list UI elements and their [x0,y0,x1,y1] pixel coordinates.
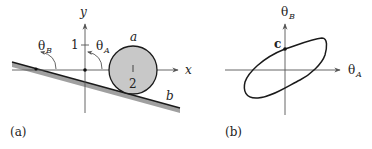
disk-center-label: 2 [129,77,137,91]
caption-b: (b) [225,125,242,139]
svg-text:θ: θ [96,39,103,53]
svg-text:B: B [45,46,52,55]
figure: y x 1 a 2 b θ B θ A (a) c θ B θ [0,0,372,149]
incline-point-dot [34,67,37,70]
theta-b-label: θ B [38,39,52,55]
svg-text:A: A [355,70,362,79]
theta-a-arc-icon [88,52,102,69]
disk-a-label: a [130,30,137,44]
tick-1-label: 1 [71,38,79,52]
point-c-dot [283,47,287,51]
svg-text:θ: θ [38,39,45,53]
figure-svg: y x 1 a 2 b θ B θ A (a) c θ B θ [0,0,372,149]
incline-b-label: b [166,89,174,103]
svg-text:B: B [288,12,295,21]
svg-text:A: A [103,46,110,55]
svg-text:θ: θ [348,63,355,77]
y-axis-label: y [79,5,87,19]
theta-a-axis-label: θ A [348,63,362,79]
x-axis-label: x [185,63,192,77]
svg-text:θ: θ [281,5,288,19]
caption-a: (a) [10,125,27,139]
origin-dot [83,68,87,72]
panel-a: y x 1 a 2 b θ B θ A (a) [10,5,192,139]
theta-a-label: θ A [96,39,110,55]
panel-b: c θ B θ A (b) [225,5,362,139]
point-c-label: c [274,37,281,51]
theta-b-axis-label: θ B [281,5,295,21]
